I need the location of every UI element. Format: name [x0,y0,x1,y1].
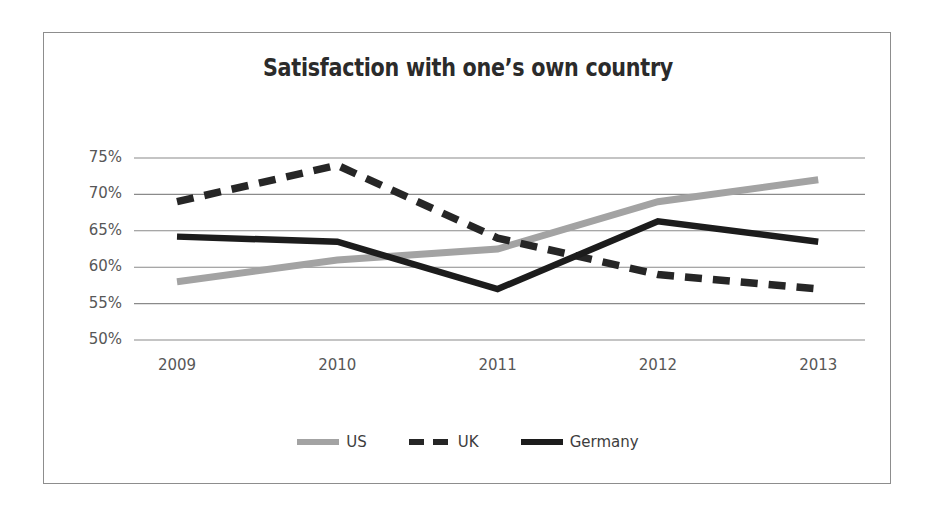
x-tick-label: 2012 [618,356,698,374]
x-tick-label: 2013 [778,356,858,374]
y-tick-label: 70% [66,184,122,202]
legend-item-uk[interactable]: UK [409,433,479,451]
y-tick-label: 65% [66,221,122,239]
chart-legend: USUKGermany [44,433,892,451]
dashed-line-swatch [409,439,451,445]
chart-frame: Satisfaction with one’s own country 50%5… [43,32,891,484]
x-tick-label: 2010 [297,356,377,374]
y-tick-label: 50% [66,330,122,348]
legend-item-germany[interactable]: Germany [521,433,639,451]
legend-item-us[interactable]: US [297,433,367,451]
chart-figure: Satisfaction with one’s own country 50%5… [0,0,930,520]
x-tick-label: 2011 [458,356,538,374]
line-chart-plot [44,33,892,485]
y-tick-label: 55% [66,294,122,312]
legend-label: UK [458,433,479,451]
y-tick-label: 60% [66,257,122,275]
solid-line-swatch [521,439,563,445]
series-lines [177,165,818,289]
x-tick-label: 2009 [137,356,217,374]
solid-line-swatch [297,439,339,445]
legend-label: US [346,433,367,451]
legend-label: Germany [570,433,639,451]
y-tick-label: 75% [66,148,122,166]
